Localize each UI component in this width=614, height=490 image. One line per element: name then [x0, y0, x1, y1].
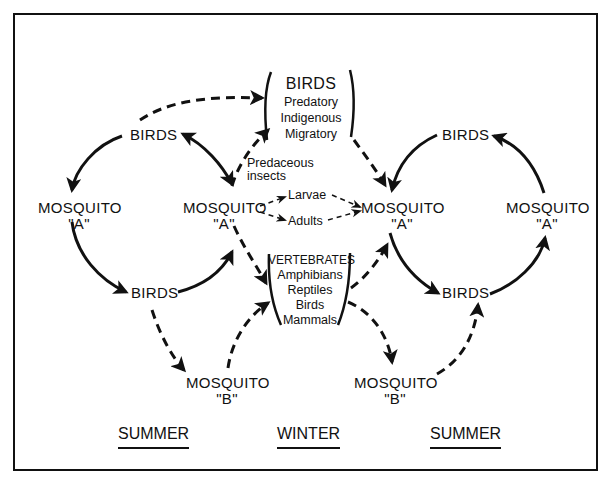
node-birds-top-left: BIRDS	[130, 127, 177, 143]
label-adults: Adults	[288, 215, 323, 228]
node-mosquito-b-left: MOSQUITO "B"	[186, 375, 268, 407]
arrow-mosquito-b-to-vertebrates	[228, 303, 268, 368]
label-larvae: Larvae	[288, 189, 326, 202]
connector-layer	[0, 0, 614, 490]
arrow-mosquito-right-to-birds-bottom-right	[390, 233, 438, 293]
arrow-birds-group-to-mosquito-right	[354, 140, 385, 185]
season-label-winter: WINTER	[277, 425, 340, 449]
node-mosquito-a-center-right: MOSQUITO "A"	[361, 200, 443, 232]
arrow-birds-bottom-to-mosquito-b-left	[152, 310, 184, 370]
birds-group: BIRDS Predatory Indigenous Migratory	[272, 76, 350, 141]
arrow-birds-to-birds-group	[140, 98, 262, 120]
arrow-adults-to-mosquito-right	[328, 211, 360, 220]
arrow-vertebrates-to-mosquito-b-right	[348, 302, 392, 362]
arrow-birds-top-mosquito-center-bidirectional	[183, 134, 232, 184]
arrow-mosquito-center-to-vertebrates	[234, 226, 266, 283]
node-mosquito-a-left: MOSQUITO "A"	[38, 200, 120, 232]
arrow-birds-bottom-right-to-mosquito-a-right	[490, 238, 545, 294]
arrow-vertebrates-to-mosquito-right	[351, 245, 387, 288]
arrow-mosquito-a-right-to-birds-top-right	[494, 136, 544, 193]
node-birds-bottom-right: BIRDS	[442, 285, 489, 301]
arrow-mosquito-to-birds-bottom-left	[72, 222, 126, 292]
node-mosquito-b-right: MOSQUITO "B"	[354, 375, 436, 407]
season-label-summer-left: SUMMER	[118, 425, 189, 449]
node-mosquito-a-right: MOSQUITO "A"	[506, 200, 588, 232]
arrow-birds-top-right-to-mosquito-right	[392, 135, 437, 190]
label-predaceous-insects: Predaceous insects	[247, 157, 314, 183]
season-label-summer-right: SUMMER	[430, 425, 501, 449]
arrow-mosquito-b-right-to-birds-bottom	[437, 305, 478, 374]
arrow-larvae-to-mosquito-right	[332, 195, 360, 207]
right-dashed-arrows	[348, 140, 478, 374]
node-mosquito-a-center-left: MOSQUITO "A"	[183, 200, 265, 232]
node-birds-top-right: BIRDS	[442, 127, 489, 143]
arrow-birds-to-mosquito-left	[72, 136, 122, 190]
arrow-birds-bottom-to-mosquito-center	[178, 252, 232, 292]
vertebrates-group: VERTEBRATES Amphibians Reptiles Birds Ma…	[268, 254, 352, 327]
node-birds-bottom-left: BIRDS	[131, 285, 178, 301]
